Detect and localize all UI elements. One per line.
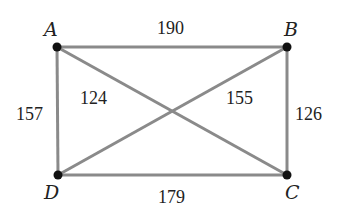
weight-b-d: 155 [226, 88, 253, 108]
vertex-label-a: A [42, 18, 58, 40]
vertex-label-c: C [285, 181, 300, 203]
weight-b-c: 126 [295, 104, 322, 124]
weight-a-b: 190 [157, 18, 184, 38]
vertex-a [53, 43, 62, 52]
vertex-b [283, 43, 292, 52]
vertex-label-b: B [283, 18, 298, 40]
edge-a-d [57, 47, 58, 175]
vertex-c [283, 171, 292, 180]
vertex-d [54, 171, 63, 180]
weight-a-d: 157 [16, 104, 43, 124]
graph-diagram: A B C D 190 126 179 157 124 155 [0, 0, 339, 221]
weight-d-c: 179 [158, 187, 185, 207]
weight-a-c: 124 [80, 88, 107, 108]
vertex-label-d: D [43, 181, 59, 203]
